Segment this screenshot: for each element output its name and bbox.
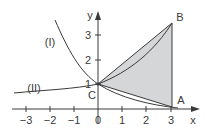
graph-canvas: −3 −2 −1 0 1 2 3 x 1 2 3 y A B C (I) (II… <box>0 0 206 128</box>
x-tick-label: −3 <box>20 114 33 126</box>
point-label-A: A <box>177 94 185 106</box>
x-tick-label: 1 <box>119 114 125 126</box>
x-tick-label: 3 <box>168 114 174 126</box>
point-C-marker <box>96 82 99 85</box>
x-tick-label: −1 <box>68 114 81 126</box>
y-axis-arrow-icon <box>95 11 101 20</box>
exponential-graph-figure: −3 −2 −1 0 1 2 3 x 1 2 3 y A B C (I) (II… <box>0 0 206 128</box>
x-tick-label: 0 <box>95 114 101 126</box>
x-tick-label: 2 <box>143 114 149 126</box>
curve-label-II: (II) <box>27 82 40 94</box>
x-axis-arrow-icon <box>191 106 200 112</box>
y-axis-label: y <box>87 9 93 21</box>
x-axis-label: x <box>190 114 196 126</box>
point-label-C: C <box>88 89 96 101</box>
y-tick-label: 3 <box>85 29 91 41</box>
y-tick-label: 2 <box>85 54 91 66</box>
x-tick-label: −2 <box>44 114 57 126</box>
point-label-B: B <box>176 11 183 23</box>
shaded-region <box>98 23 172 107</box>
curve-label-I: (I) <box>45 36 55 48</box>
